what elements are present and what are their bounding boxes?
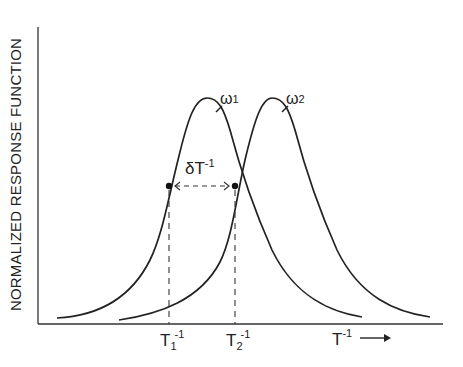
marker-dot-t1	[166, 183, 172, 189]
t2-inverse-label: T2-1	[226, 328, 250, 352]
x-axis-arrow-icon	[384, 334, 391, 342]
curve-omega-1	[57, 98, 362, 318]
y-axis-label: NORMALIZED RESPONSE FUNCTION	[6, 28, 26, 320]
response-function-diagram: NORMALIZED RESPONSE FUNCTION ω1 ω2 δT-1	[0, 0, 463, 367]
omega-2-label: ω2	[286, 90, 305, 107]
t1-inverse-label: T1-1	[160, 328, 184, 352]
diagram-canvas: ω1 ω2 δT-1 T1-1 T2-1 T-1	[0, 0, 463, 367]
delta-t-label: δT-1	[185, 157, 215, 178]
y-axis-label-text: NORMALIZED RESPONSE FUNCTION	[8, 37, 25, 310]
omega-1-label: ω1	[220, 90, 239, 107]
marker-dot-t2	[232, 183, 238, 189]
x-axis-label: T-1	[332, 327, 352, 349]
